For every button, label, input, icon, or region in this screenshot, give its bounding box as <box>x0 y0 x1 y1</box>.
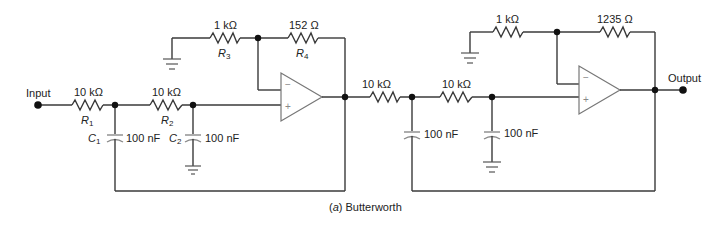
ground-symbol <box>483 162 501 172</box>
cb-value: 100 nF <box>504 128 538 139</box>
resistor-r1 <box>72 100 103 110</box>
resistor-rb <box>440 92 472 102</box>
r2-designator: R2 <box>161 115 173 128</box>
output-label: Output <box>668 73 701 84</box>
resistor-rd <box>600 27 630 37</box>
opamp1-noninverting-sign: + <box>285 102 291 112</box>
c1-designator: C1 <box>88 133 100 146</box>
r3-designator: R3 <box>218 48 230 61</box>
circuit-schematic <box>0 0 717 234</box>
r4-designator: R4 <box>296 48 308 61</box>
resistor-ra <box>370 92 400 102</box>
ca-value: 100 nF <box>424 129 458 140</box>
figure-caption: (a) Butterworth <box>329 202 402 213</box>
r2-value: 10 kΩ <box>152 87 181 98</box>
output-terminal <box>679 86 687 94</box>
resistor-r3 <box>210 33 240 43</box>
resistor-r2 <box>150 100 182 110</box>
rd-value: 1235 Ω <box>597 14 633 25</box>
c1-value: 100 nF <box>126 133 160 144</box>
input-terminal <box>34 101 42 109</box>
rb-value: 10 kΩ <box>442 79 471 90</box>
ground-symbol <box>185 166 201 174</box>
ground-symbol <box>461 53 479 63</box>
stage-1 <box>34 33 370 191</box>
rc-value: 1 kΩ <box>496 14 519 25</box>
resistor-r4 <box>288 33 318 43</box>
opamp2-inverting-sign: − <box>583 73 589 83</box>
r4-value: 152 Ω <box>289 20 319 31</box>
ground-symbol <box>163 59 181 69</box>
c2-designator: C2 <box>169 133 181 146</box>
resistor-rc <box>493 27 523 37</box>
opamp1-inverting-sign: − <box>285 80 291 90</box>
stage-2 <box>370 27 687 191</box>
r1-value: 10 kΩ <box>74 87 103 98</box>
ra-value: 10 kΩ <box>362 79 391 90</box>
opamp2-noninverting-sign: + <box>583 95 589 105</box>
input-label: Input <box>26 88 50 99</box>
r3-value: 1 kΩ <box>214 20 237 31</box>
c2-value: 100 nF <box>205 133 239 144</box>
r1-designator: R1 <box>81 115 93 128</box>
